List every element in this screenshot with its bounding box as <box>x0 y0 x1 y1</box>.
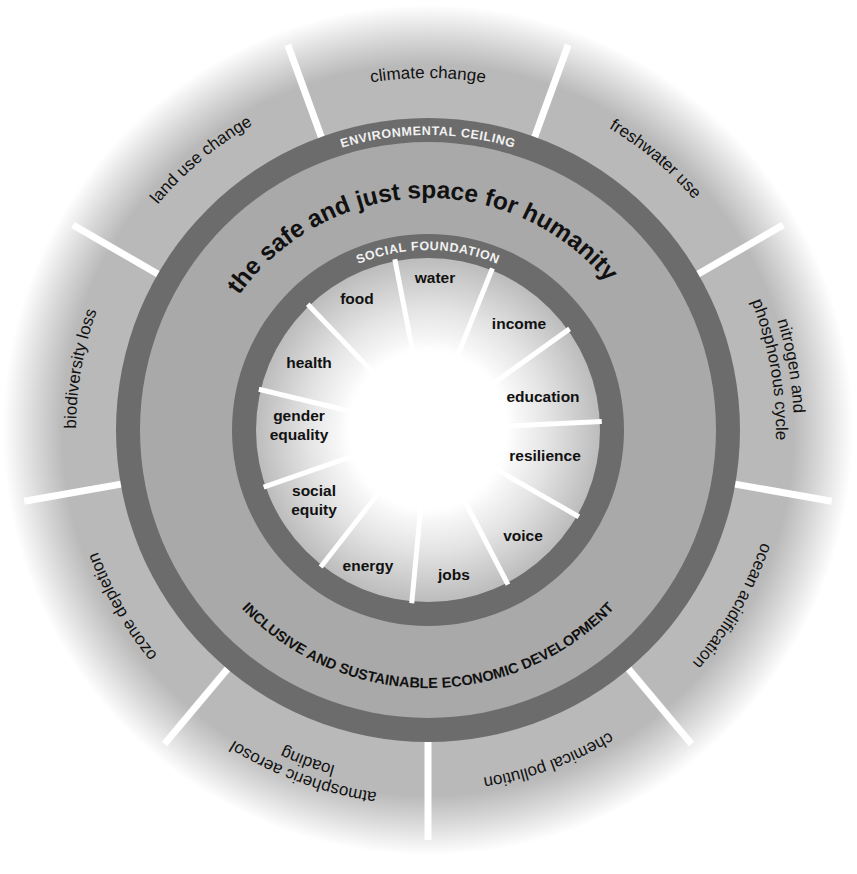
social-dimension-label: resilience <box>509 447 581 464</box>
social-dimension-label: food <box>340 290 374 307</box>
center-glow <box>348 350 508 510</box>
doughnut-svg: climate changefreshwater usenitrogen and… <box>0 0 857 874</box>
social-dimension-label: income <box>492 315 547 332</box>
social-dimension-label: health <box>286 354 332 371</box>
social-dimension-label: education <box>506 388 579 405</box>
social-dimension-label: voice <box>503 527 543 544</box>
social-dimension-label: water <box>414 269 456 286</box>
social-dimension-label: jobs <box>437 566 470 583</box>
social-dimension-label: energy <box>343 557 394 574</box>
doughnut-diagram: climate changefreshwater usenitrogen and… <box>0 0 857 874</box>
